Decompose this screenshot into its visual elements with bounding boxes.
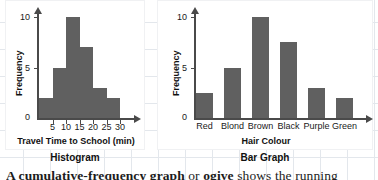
histogram-x-tick-30: 30 xyxy=(114,123,127,132)
histogram-caption: Histogram xyxy=(5,152,145,163)
bargraph-bar-black xyxy=(280,42,297,118)
bargraph-x-tick-green: Green xyxy=(330,122,359,131)
histogram-card: 10 5 0 5 10 15 20 25 30 Frequenc xyxy=(5,0,145,150)
bargraph-x-tick-purple: Purple xyxy=(302,122,331,131)
bargraph-bar-green xyxy=(336,98,353,118)
bargraph-bar-red xyxy=(196,93,213,118)
body-text-part3: ogive xyxy=(203,168,234,180)
histogram-x-tick-5: 5 xyxy=(46,123,59,132)
histogram-bar-10-15 xyxy=(66,17,80,118)
bargraph-x-axis-arrow-icon xyxy=(366,115,373,123)
bargraph-y-axis-title: Frequency xyxy=(171,50,181,96)
bargraph-card: 10 5 0 Red Blond Brown Black Purple Gree… xyxy=(157,0,373,150)
bargraph-y-tick-10: 10 xyxy=(173,13,187,22)
histogram-x-tick-15: 15 xyxy=(73,123,86,132)
histogram-y-tick-0: 0 xyxy=(16,113,30,122)
histogram-bar-5-10 xyxy=(53,68,67,119)
histogram-x-tick-25: 25 xyxy=(100,123,113,132)
body-text-part1: A cumulative-frequency graph xyxy=(6,168,185,180)
bargraph-bar-purple xyxy=(308,88,325,118)
bargraph-bar-brown xyxy=(252,17,269,118)
histogram-x-tick-20: 20 xyxy=(87,123,100,132)
histogram-y-tick-10: 10 xyxy=(16,13,30,22)
histogram-bar-0-5 xyxy=(39,98,53,118)
histogram-y-axis-arrow-icon xyxy=(34,7,42,14)
histogram-x-tick-10: 10 xyxy=(60,123,73,132)
bargraph-x-tick-brown: Brown xyxy=(246,122,275,131)
histogram-bar-20-25 xyxy=(93,88,107,118)
body-paragraph: A cumulative-frequency graph or ogive sh… xyxy=(6,168,378,180)
bargraph-x-tick-black: Black xyxy=(274,122,303,131)
bargraph-x-tick-red: Red xyxy=(190,122,219,131)
bargraph-caption: Bar Graph xyxy=(157,152,373,163)
histogram-plot-area: 10 5 0 5 10 15 20 25 30 Frequenc xyxy=(6,1,144,149)
bargraph-x-axis-title: Hair Colour xyxy=(158,136,374,146)
histogram-x-axis-arrow-icon xyxy=(134,115,141,123)
bargraph-x-tick-blond: Blond xyxy=(218,122,247,131)
histogram-y-axis-title: Frequency xyxy=(14,50,24,96)
bargraph-bar-blond xyxy=(224,68,241,119)
bargraph-y-axis-arrow-icon xyxy=(191,7,199,14)
histogram-x-axis-title: Travel Time to School (min) xyxy=(6,136,146,146)
histogram-bar-15-20 xyxy=(80,47,94,118)
bargraph-x-axis xyxy=(194,118,366,120)
bargraph-y-tick-0: 0 xyxy=(173,113,187,122)
bargraph-plot-area: 10 5 0 Red Blond Brown Black Purple Gree… xyxy=(158,1,372,149)
body-text-part2: or xyxy=(185,168,203,180)
body-text-part4: shows the running xyxy=(234,168,338,180)
histogram-bar-25-30 xyxy=(107,98,121,118)
